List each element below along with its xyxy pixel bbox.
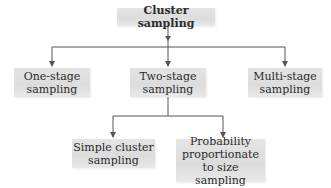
- node-label: Probability proportionate to size sampli…: [176, 135, 265, 187]
- node-multi-stage-sampling: Multi-stage sampling: [248, 68, 322, 97]
- node-simple-cluster-sampling: Simple cluster sampling: [72, 139, 155, 168]
- arrow-down-icon: [110, 132, 116, 138]
- node-label: Simple cluster sampling: [73, 141, 154, 167]
- node-label: Multi-stage sampling: [253, 70, 317, 96]
- cluster-sampling-diagram: Cluster sampling One-stage sampling Two-…: [0, 0, 331, 188]
- node-cluster-sampling: Cluster sampling: [117, 8, 215, 26]
- arrow-down-icon: [165, 61, 171, 67]
- arrow-down-icon: [49, 61, 55, 67]
- node-one-stage-sampling: One-stage sampling: [14, 68, 90, 97]
- arrow-down-icon: [282, 61, 288, 67]
- node-label: Two-stage sampling: [140, 70, 197, 96]
- node-label: One-stage sampling: [24, 70, 81, 96]
- node-two-stage-sampling: Two-stage sampling: [130, 68, 206, 97]
- node-label: Cluster sampling: [117, 4, 215, 30]
- node-pps-sampling: Probability proportionate to size sampli…: [176, 139, 265, 182]
